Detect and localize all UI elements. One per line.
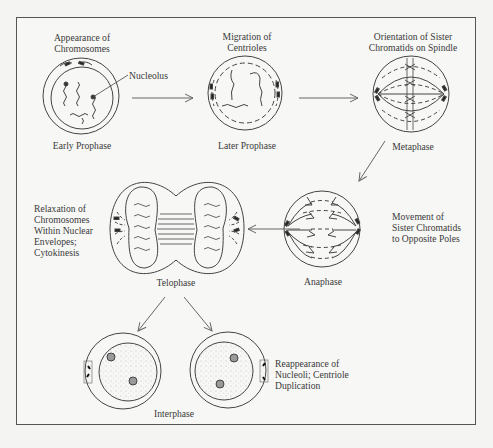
caption-line: Centrioles <box>214 42 280 53</box>
metaphase-caption: Orientation of Sister Chromatids on Spin… <box>360 31 466 53</box>
early-prophase-label: Early Prophase <box>40 140 124 151</box>
later-prophase-caption: Migration of Centrioles <box>214 31 280 53</box>
caption-line: Relaxation of <box>34 203 93 214</box>
telophase-caption: Relaxation of Chromosomes Within Nuclear… <box>34 203 93 258</box>
metaphase-cell <box>373 56 449 132</box>
caption-line: Orientation of Sister <box>360 31 466 42</box>
telophase-label: Telophase <box>143 277 209 288</box>
interphase-label: Interphase <box>141 408 207 419</box>
caption-line: Chromatids on Spindle <box>360 42 466 53</box>
caption-line: Chromosomes <box>47 43 117 54</box>
caption-line: Chromosomes <box>34 214 93 225</box>
caption-line: Migration of <box>214 31 280 42</box>
later-prophase-cell <box>208 56 282 130</box>
arrow-telophase-to-interphase-left <box>138 297 165 331</box>
telophase-cell <box>110 182 244 273</box>
caption-line: Within Nuclear <box>34 225 93 236</box>
caption-line: Nucleoli; Centriole <box>275 369 349 380</box>
caption-line: Cytokinesis <box>34 247 93 258</box>
early-prophase-cell <box>43 58 128 134</box>
caption-line: Sister Chromatids <box>392 222 461 233</box>
interphase-cell-right <box>190 332 268 408</box>
caption-line: Appearance of <box>47 32 117 43</box>
caption-line: Duplication <box>275 380 349 391</box>
metaphase-label: Metaphase <box>380 141 446 152</box>
later-prophase-label: Later Prophase <box>205 140 289 151</box>
nucleolus-callout: Nucleolus <box>129 70 168 81</box>
interphase-cell-left <box>84 333 161 409</box>
arrow-telophase-to-interphase-right <box>184 297 212 331</box>
caption-line: Movement of <box>392 211 461 222</box>
anaphase-caption: Movement of Sister Chromatids to Opposit… <box>392 211 461 244</box>
anaphase-label: Anaphase <box>290 276 356 287</box>
caption-line: Envelopes; <box>34 236 93 247</box>
flow-arrows <box>132 98 385 331</box>
interphase-caption: Reappearance of Nucleoli; Centriole Dupl… <box>275 358 349 391</box>
early-prophase-caption: Appearance of Chromosomes <box>47 32 117 54</box>
caption-line: to Opposite Poles <box>392 233 461 244</box>
caption-line: Reappearance of <box>275 358 349 369</box>
